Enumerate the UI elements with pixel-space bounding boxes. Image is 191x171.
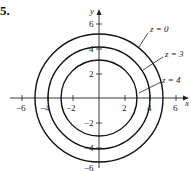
leader-line-z0 (139, 33, 148, 47)
x-tick-label-pos4: 4 (147, 103, 152, 113)
x-tick-label-pos6: 6 (173, 103, 178, 113)
x-tick-label-pos2: 2 (122, 103, 127, 113)
y-tick-label-neg4: −4 (84, 143, 94, 153)
y-tick-label-pos4: 4 (89, 44, 94, 54)
leader-line-z3 (143, 57, 163, 70)
y-axis-arrow-icon (97, 9, 102, 15)
y-tick-label-pos2: 2 (89, 69, 94, 79)
x-tick-label-neg2: −2 (66, 103, 76, 113)
x-tick-label-neg6: −6 (16, 103, 26, 113)
level-label-z4: z = 4 (161, 75, 181, 85)
contour-plot: −6 −4 −2 2 4 6 6 4 2 −2 −4 −6 y x z = 0 … (0, 0, 191, 171)
x-axis-label: x (184, 98, 189, 108)
level-label-z0: z = 0 (149, 24, 169, 34)
y-tick-label-pos6: 6 (89, 19, 94, 29)
y-tick-label-neg2: −2 (84, 118, 94, 128)
level-label-z3: z = 3 (164, 49, 184, 59)
x-tick-label-neg4: −4 (40, 103, 50, 113)
leader-lines (139, 33, 163, 93)
y-tick-label-neg6: −6 (84, 163, 94, 171)
y-axis-label: y (89, 6, 94, 16)
